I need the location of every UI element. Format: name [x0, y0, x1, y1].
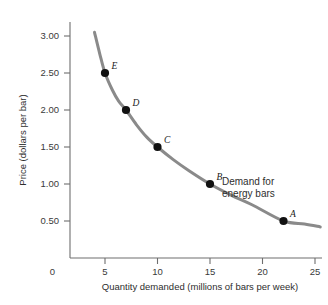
x-tick-label: 0 — [50, 266, 55, 277]
y-tick-label: 0.50 — [41, 215, 60, 226]
y-tick-label: 3.00 — [41, 30, 60, 41]
data-point-a — [279, 217, 287, 225]
x-tick-label: 10 — [152, 266, 163, 277]
y-axis-label: Price (dollars per bar) — [17, 94, 28, 185]
chart-canvas: 0.501.001.502.002.503.00 0510152025 ABCD… — [0, 0, 328, 305]
x-tick-label: 25 — [310, 266, 321, 277]
data-point-d — [122, 106, 130, 114]
x-tick-label: 5 — [102, 266, 107, 277]
x-axis-ticks: 0510152025 — [50, 258, 320, 277]
data-point-b — [206, 180, 214, 188]
data-point-label-a: A — [289, 209, 296, 219]
y-tick-label: 2.00 — [41, 104, 60, 115]
y-tick-label: 2.50 — [41, 67, 60, 78]
demand-curve-figure: 0.501.001.502.002.503.00 0510152025 ABCD… — [0, 0, 328, 305]
curve-annotation-line-1: Demand for — [222, 176, 275, 187]
data-point-c — [153, 143, 161, 151]
y-tick-label: 1.00 — [41, 178, 60, 189]
data-point-label-c: C — [164, 135, 171, 145]
x-axis-label: Quantity demanded (millions of bars per … — [102, 281, 298, 292]
y-axis-ticks: 0.501.001.502.002.503.00 — [41, 30, 71, 226]
demand-curve-line — [95, 32, 321, 227]
x-tick-label: 15 — [205, 266, 216, 277]
data-point-e — [101, 69, 109, 77]
y-tick-label: 1.50 — [41, 141, 60, 152]
data-point-label-e: E — [111, 61, 118, 71]
data-point-label-d: D — [132, 98, 140, 108]
x-tick-label: 20 — [257, 266, 268, 277]
curve-annotation-line-2: energy bars — [222, 188, 275, 199]
data-points-group: ABCDE — [101, 61, 296, 226]
